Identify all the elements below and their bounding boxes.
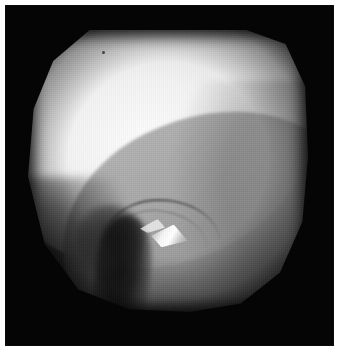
image-frame — [5, 5, 334, 346]
lateral-wall-shading — [174, 81, 308, 307]
page-root — [0, 0, 344, 357]
arthroscopy-field-of-view — [28, 30, 308, 312]
